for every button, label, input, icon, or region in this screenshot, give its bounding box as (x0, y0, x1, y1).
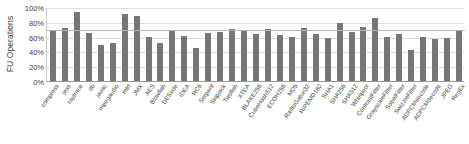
bar (217, 32, 223, 81)
bar (169, 31, 175, 81)
bar (122, 14, 128, 81)
bar (384, 37, 390, 81)
bar (146, 37, 152, 81)
bar (229, 29, 235, 81)
bar (360, 27, 366, 81)
bar (205, 33, 211, 81)
bar (181, 36, 187, 81)
bar (432, 39, 438, 81)
bar (372, 18, 378, 81)
bar (444, 38, 450, 81)
bar (337, 23, 343, 81)
x-axis-tick-label: JMX (131, 83, 143, 97)
x-axis-tick-labels: compressjessraytracedbjavacmpegaudiomtrt… (46, 83, 464, 144)
bar (62, 28, 68, 81)
y-axis-tick-label: 100% (25, 4, 44, 13)
average-line (47, 30, 465, 31)
bar (98, 45, 104, 81)
bar (74, 12, 80, 81)
bar (420, 37, 426, 81)
y-axis-tick-label: 40% (29, 48, 44, 57)
bar (193, 48, 199, 81)
bar (110, 43, 116, 81)
bar (50, 30, 56, 81)
x-axis-tick-label: mtrt (121, 83, 132, 95)
bar (301, 28, 307, 81)
plot-area (46, 8, 464, 82)
bar (157, 43, 163, 81)
x-axis-tick-label: db (87, 83, 96, 92)
x-axis-tick-label: IDEA (178, 83, 191, 98)
bar-series (47, 8, 464, 81)
y-axis-tick-label: 0% (33, 78, 44, 87)
chart-figure: FU Operations 0%20%40%60%80%100% compres… (0, 0, 469, 144)
y-axis-tick-label: 60% (29, 33, 44, 42)
bar (313, 34, 319, 81)
x-axis-tick-label: compress (40, 83, 60, 109)
y-axis-tick-label: 80% (29, 18, 44, 27)
bar (396, 34, 402, 81)
bar (456, 31, 462, 81)
bar (253, 34, 259, 81)
bar (408, 50, 414, 81)
bar (134, 16, 140, 81)
y-axis-tick-labels: 0%20%40%60%80%100% (14, 8, 44, 82)
bar (86, 33, 92, 81)
bar (289, 37, 295, 81)
bar (265, 29, 271, 81)
bar (325, 38, 331, 81)
bar (277, 35, 283, 81)
y-axis-tick-label: 20% (29, 63, 44, 72)
bar (349, 32, 355, 81)
bar (241, 31, 247, 81)
